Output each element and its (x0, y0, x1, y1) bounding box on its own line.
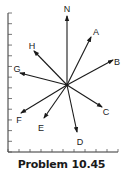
vector-c-label: C (103, 107, 110, 117)
vector-a-label: A (93, 27, 99, 37)
vector-b-arrow (67, 60, 113, 85)
vector-h-label: H (29, 41, 36, 51)
vector-f-arrow (21, 85, 67, 113)
vector-diagram: NABCDEFGH (0, 0, 123, 177)
vector-n-label: N (64, 4, 71, 14)
vector-e-arrow (44, 85, 67, 118)
origin-point (65, 83, 68, 86)
vector-b-label: B (114, 57, 120, 67)
graph-axes (8, 13, 118, 152)
vector-d-arrow (67, 85, 77, 132)
vector-g-arrow (20, 73, 67, 85)
vector-c-arrow (67, 85, 102, 107)
vector-g-label: G (13, 64, 20, 74)
vector-f-label: F (16, 115, 22, 125)
vector-e-label: E (38, 123, 44, 133)
vector-d-label: D (77, 137, 84, 147)
vector-arrows (20, 16, 113, 132)
vector-h-arrow (34, 51, 67, 85)
figure-caption: Problem 10.45 (0, 158, 123, 171)
vector-a-arrow (67, 37, 91, 85)
